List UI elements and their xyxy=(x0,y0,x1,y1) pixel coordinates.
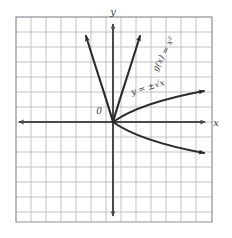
graph-figure: y x 0 g(x) = x² y = ±√x xyxy=(0,0,232,238)
x-axis-label: x xyxy=(213,117,219,128)
y-axis-label: y xyxy=(109,6,116,17)
sqrt-lower-branch xyxy=(113,122,204,153)
sqrt-equation-label: y = ±√x xyxy=(129,77,166,97)
origin-label: 0 xyxy=(96,106,102,116)
parabola-equation-label: g(x) = x² xyxy=(150,35,177,73)
sqrt-upper-branch xyxy=(113,91,204,122)
coordinate-plane-svg: y x 0 g(x) = x² y = ±√x xyxy=(0,0,232,238)
